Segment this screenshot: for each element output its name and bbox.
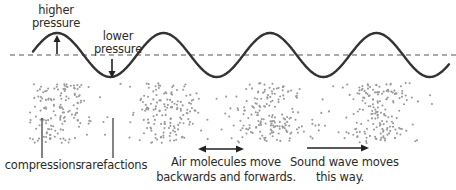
sound-wave-line2: this way. <box>290 171 390 184</box>
oscillation-double-arrow <box>198 146 244 153</box>
air-molecules-caption: Air molecules move backwards and forward… <box>156 156 296 184</box>
air-molecules-line2: backwards and forwards. <box>156 171 296 184</box>
lower-pressure-line2: pressure <box>88 43 148 56</box>
propagation-right-arrow <box>307 145 369 152</box>
sound-wave-caption: Sound wave moves this way. <box>290 156 390 184</box>
sound-wave-line1: Sound wave moves <box>290 156 390 169</box>
higher-pressure-arrow <box>54 35 61 54</box>
compressions-label: compressions <box>4 159 82 172</box>
lower-pressure-label: lower pressure <box>88 30 148 56</box>
higher-pressure-label: higher pressure <box>24 4 88 30</box>
air-particle-field <box>29 82 433 144</box>
higher-pressure-line2: pressure <box>24 17 88 30</box>
rarefactions-label: rarefactions <box>80 159 148 172</box>
air-molecules-line1: Air molecules move <box>156 156 296 169</box>
